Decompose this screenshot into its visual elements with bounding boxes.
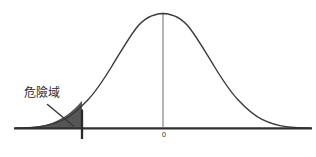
x-axis-origin-tick-label: 0 <box>158 131 170 140</box>
normal-distribution-figure: 危險域 0 <box>0 0 316 157</box>
critical-region-label: 危險域 <box>24 86 60 100</box>
